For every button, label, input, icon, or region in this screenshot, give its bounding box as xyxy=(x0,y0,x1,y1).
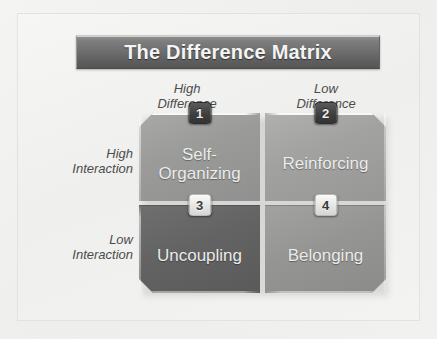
column-label-high-difference: High Difference xyxy=(126,81,248,111)
column-label-high-difference-line1: High xyxy=(126,81,248,96)
row-label-high-interaction-line1: High xyxy=(20,146,133,161)
page-title: The Difference Matrix xyxy=(124,41,332,64)
quadrant-3-label: Uncoupling xyxy=(144,246,255,265)
quadrant-2-body: Reinforcing xyxy=(265,141,386,173)
quadrant-1-number-badge: 1 xyxy=(188,102,211,124)
title-banner: The Difference Matrix xyxy=(76,35,380,69)
column-label-high-difference-line2: Difference xyxy=(126,96,248,111)
quadrant-belonging[interactable]: 4 Belonging xyxy=(265,205,386,293)
quadrant-1-body: Self-Organizing xyxy=(139,132,260,183)
quadrant-3-body: Uncoupling xyxy=(139,233,260,265)
column-label-low-difference-line1: Low xyxy=(265,81,387,96)
row-label-high-interaction: High Interaction xyxy=(20,146,133,176)
row-label-low-interaction-line1: Low xyxy=(20,232,133,247)
quadrant-uncoupling[interactable]: 3 Uncoupling xyxy=(139,205,260,293)
diagram-canvas: The Difference Matrix High Difference Lo… xyxy=(0,0,437,339)
row-label-low-interaction-line2: Interaction xyxy=(20,247,133,262)
row-label-low-interaction: Low Interaction xyxy=(20,232,133,262)
quadrant-4-number-badge: 4 xyxy=(314,194,337,216)
quadrant-reinforcing[interactable]: 2 Reinforcing xyxy=(265,113,386,201)
quadrant-4-body: Belonging xyxy=(265,233,386,265)
difference-matrix: 1 Self-Organizing 2 Reinforcing 3 Uncoup… xyxy=(139,113,386,293)
quadrant-1-label: Self-Organizing xyxy=(144,145,255,183)
quadrant-2-number-badge: 2 xyxy=(314,102,337,124)
quadrant-3-number-badge: 3 xyxy=(188,194,211,216)
quadrant-2-label: Reinforcing xyxy=(270,154,381,173)
quadrant-4-label: Belonging xyxy=(270,246,381,265)
quadrant-self-organizing[interactable]: 1 Self-Organizing xyxy=(139,113,260,201)
row-label-high-interaction-line2: Interaction xyxy=(20,161,133,176)
